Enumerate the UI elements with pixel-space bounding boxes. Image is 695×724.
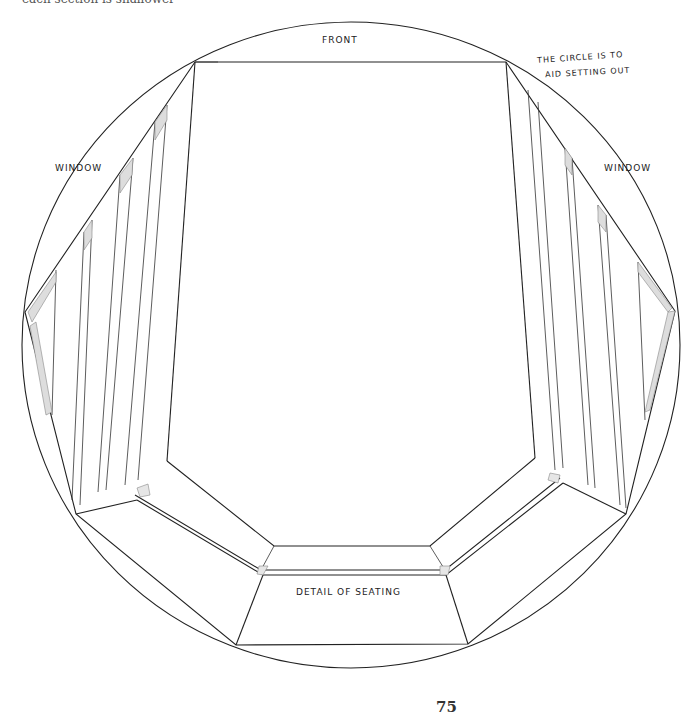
bench-apron-left-corner — [76, 500, 137, 514]
bench-apron-right — [446, 575, 468, 644]
bench-front-edge-2 — [137, 483, 563, 575]
right-wall-boards — [528, 90, 675, 508]
bench-front-edge-1 — [135, 478, 560, 570]
bench-back-edge — [167, 458, 535, 546]
page-number: 75 — [436, 698, 457, 716]
setting-out-circle — [22, 22, 680, 668]
outer-octagon — [25, 62, 675, 645]
right-inner-edge — [506, 62, 535, 458]
bench-apron-right-corner — [563, 483, 626, 514]
label-front: FRONT — [322, 35, 358, 45]
label-window-left: WINDOW — [55, 163, 102, 173]
bench-apron-left — [236, 575, 263, 645]
seating-plan-drawing — [0, 0, 695, 724]
label-seating: DETAIL OF SEATING — [296, 587, 401, 597]
left-inner-edge — [167, 62, 195, 461]
label-window-right: WINDOW — [604, 163, 651, 173]
